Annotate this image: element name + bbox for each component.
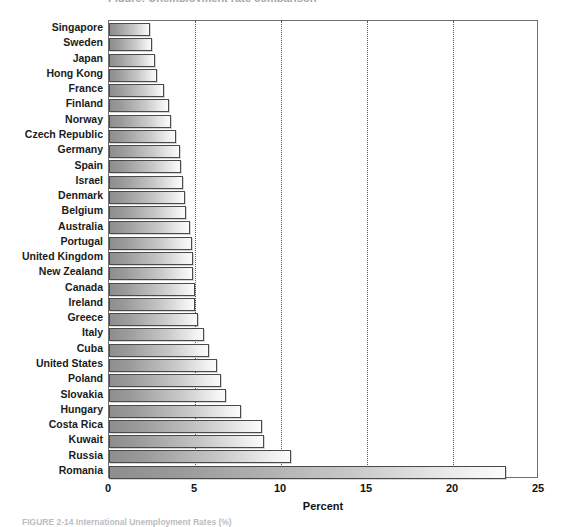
x-tick-label-5: 5 [191,482,197,494]
bar-greece[interactable] [109,313,198,326]
bar-poland[interactable] [109,374,221,387]
y-axis-label-australia: Australia [0,221,103,232]
bar-italy[interactable] [109,328,204,341]
figure-caption: FIGURE 2-14 International Unemployment R… [22,517,442,527]
plot-area [108,20,538,478]
bar-russia[interactable] [109,450,291,463]
bar-hungary[interactable] [109,405,241,418]
y-axis-label-france: France [0,83,103,94]
y-axis-labels: SingaporeSwedenJapanHong KongFranceFinla… [0,20,103,478]
y-axis-label-new-zealand: New Zealand [0,266,103,277]
y-axis-label-ireland: Ireland [0,297,103,308]
bar-belgium[interactable] [109,206,186,219]
y-axis-label-kuwait: Kuwait [0,434,103,445]
bar-portugal[interactable] [109,237,192,250]
bar-cuba[interactable] [109,344,209,357]
y-axis-label-israel: Israel [0,175,103,186]
bar-israel[interactable] [109,176,183,189]
bar-rows [109,21,537,477]
y-axis-label-czech-republic: Czech Republic [0,129,103,140]
y-axis-label-hungary: Hungary [0,404,103,415]
x-tick-label-10: 10 [274,482,286,494]
bar-finland[interactable] [109,99,169,112]
bar-denmark[interactable] [109,191,185,204]
bar-canada[interactable] [109,283,195,296]
bar-hong-kong[interactable] [109,69,157,82]
bar-norway[interactable] [109,115,171,128]
y-axis-label-sweden: Sweden [0,37,103,48]
y-axis-label-germany: Germany [0,144,103,155]
y-axis-label-russia: Russia [0,450,103,461]
y-axis-label-spain: Spain [0,160,103,171]
bar-germany[interactable] [109,145,180,158]
y-axis-label-poland: Poland [0,373,103,384]
bar-sweden[interactable] [109,38,152,51]
y-axis-label-costa-rica: Costa Rica [0,419,103,430]
y-axis-label-slovakia: Slovakia [0,389,103,400]
y-axis-label-denmark: Denmark [0,190,103,201]
y-axis-label-hong-kong: Hong Kong [0,68,103,79]
bar-australia[interactable] [109,221,190,234]
bar-czech-republic[interactable] [109,130,176,143]
bar-romania[interactable] [109,466,506,479]
bar-singapore[interactable] [109,23,150,36]
bar-japan[interactable] [109,54,155,67]
x-tick-label-20: 20 [446,482,458,494]
y-axis-label-japan: Japan [0,53,103,64]
y-axis-label-norway: Norway [0,114,103,125]
bar-spain[interactable] [109,160,181,173]
bar-united-kingdom[interactable] [109,252,193,265]
x-tick-label-0: 0 [105,482,111,494]
y-axis-label-singapore: Singapore [0,22,103,33]
y-axis-label-greece: Greece [0,312,103,323]
y-axis-label-canada: Canada [0,282,103,293]
x-axis-title: Percent [108,500,538,512]
bar-slovakia[interactable] [109,389,226,402]
y-axis-label-portugal: Portugal [0,236,103,247]
x-axis-tick-labels: 0510152025 [0,482,567,498]
x-tick-label-15: 15 [360,482,372,494]
y-axis-label-cuba: Cuba [0,343,103,354]
top-clipped-title: Figure: Unemployment rate comparison [108,0,408,2]
y-axis-label-italy: Italy [0,327,103,338]
y-axis-label-belgium: Belgium [0,205,103,216]
x-tick-label-25: 25 [532,482,544,494]
y-axis-label-united-kingdom: United Kingdom [0,251,103,262]
figure-container: Figure: Unemployment rate comparison Sin… [0,0,567,527]
bar-united-states[interactable] [109,359,217,372]
bar-ireland[interactable] [109,298,195,311]
y-axis-label-finland: Finland [0,98,103,109]
bar-kuwait[interactable] [109,435,264,448]
bar-france[interactable] [109,84,164,97]
y-axis-label-romania: Romania [0,465,103,476]
bar-costa-rica[interactable] [109,420,262,433]
y-axis-label-united-states: United States [0,358,103,369]
bar-new-zealand[interactable] [109,267,193,280]
